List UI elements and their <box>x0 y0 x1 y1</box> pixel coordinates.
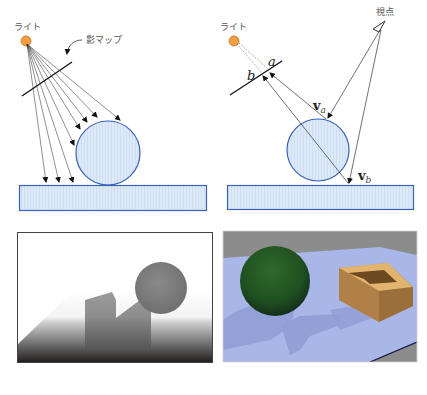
ray <box>27 44 97 117</box>
shadow-map-generation-diagram: ライト 影マップ <box>14 22 207 211</box>
ray <box>27 44 73 182</box>
shadow-map-figure: ライト 影マップ ライト 視点 a b <box>0 0 427 395</box>
floor-object <box>228 186 414 210</box>
sample-b-label: b <box>247 68 255 83</box>
view-ray-a-arrow <box>328 30 380 118</box>
render-sphere <box>240 246 310 316</box>
viewpoint-camera-icon <box>373 21 385 32</box>
shadow-map-label: 影マップ <box>86 35 122 45</box>
rendered-scene-image <box>223 231 417 362</box>
sphere-object <box>287 119 349 181</box>
view-ray-b-arrow <box>349 30 381 183</box>
callout-arrow <box>67 40 82 54</box>
depth-map-image <box>17 232 213 363</box>
viewpoint-label: 視点 <box>376 6 394 17</box>
sphere-object <box>76 121 140 185</box>
shadow-test-diagram: ライト 視点 a b va vb <box>220 6 414 210</box>
floor-object <box>20 186 207 211</box>
sample-a-label: a <box>268 54 276 69</box>
light-label: ライト <box>220 22 247 32</box>
vector-a-label: va <box>312 98 326 115</box>
light-source-icon <box>21 36 31 46</box>
shadow-map-plane <box>22 62 72 96</box>
light-ray-dotted-a <box>239 43 268 69</box>
ray <box>27 44 120 120</box>
light-label: ライト <box>14 22 41 32</box>
vector-b-label: vb <box>357 168 372 185</box>
